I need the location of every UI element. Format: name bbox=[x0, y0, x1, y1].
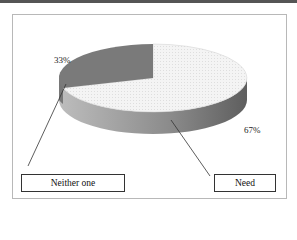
legend-need: Need bbox=[214, 174, 276, 192]
leader-line-neither bbox=[28, 84, 66, 166]
neither-percent-label: 33% bbox=[54, 55, 71, 65]
need-percent-label: 67% bbox=[244, 125, 261, 135]
legend-neither-one: Neither one bbox=[21, 174, 125, 192]
